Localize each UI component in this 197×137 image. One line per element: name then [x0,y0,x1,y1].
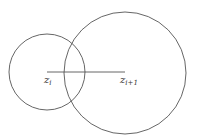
label-zi-plus-1: zi+1 [119,74,138,87]
circles-diagram: zi zi+1 [0,0,197,137]
large-circle [64,12,186,134]
label-zi: zi [43,74,52,87]
